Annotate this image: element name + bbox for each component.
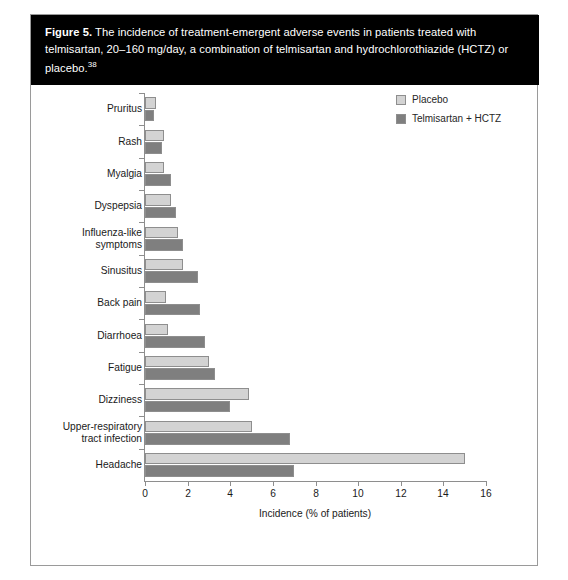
category-label-line: Myalgia: [12, 168, 142, 180]
category-label-line: Diarrhoea: [12, 330, 142, 342]
y-axis-category-label: Influenza-likesymptoms: [12, 227, 142, 251]
bar-placebo: [145, 130, 164, 142]
x-axis-tick-label: 6: [258, 488, 288, 499]
bar-telmisartan-hctz: [145, 271, 198, 283]
y-axis-category-label: Dizziness: [12, 394, 142, 406]
figure-panel: Figure 5. The incidence of treatment-eme…: [30, 14, 538, 566]
x-axis-tick: [443, 481, 444, 486]
bar-telmisartan-hctz: [145, 336, 205, 348]
bar-placebo: [145, 162, 164, 174]
category-label-line: Headache: [12, 459, 142, 471]
bar-telmisartan-hctz: [145, 239, 183, 251]
y-axis-category-label: Back pain: [12, 297, 142, 309]
bar-placebo: [145, 194, 171, 206]
bar-placebo: [145, 291, 166, 303]
x-axis-tick: [316, 481, 317, 486]
bar-placebo: [145, 97, 156, 109]
y-axis-tick: [139, 319, 144, 320]
bar-telmisartan-hctz: [145, 110, 154, 122]
y-axis-category-label: Fatigue: [12, 362, 142, 374]
y-axis-tick: [139, 158, 144, 159]
x-axis-line: [144, 481, 486, 482]
x-axis-title: Incidence (% of patients): [144, 508, 486, 519]
y-axis-tick: [139, 287, 144, 288]
y-axis-category-label: Rash: [12, 136, 142, 148]
y-axis-tick: [139, 255, 144, 256]
x-axis-tick: [273, 481, 274, 486]
bar-telmisartan-hctz: [145, 401, 230, 413]
bar-placebo: [145, 324, 168, 336]
y-axis-category-label: Sinusitus: [12, 265, 142, 277]
chart-plot-area: PlaceboTelmisartan + HCTZ Incidence (% o…: [31, 65, 539, 566]
x-axis-tick: [401, 481, 402, 486]
x-axis-tick-label: 14: [428, 488, 458, 499]
y-axis-tick: [139, 93, 144, 94]
y-axis-tick: [139, 449, 144, 450]
x-axis-tick-label: 10: [343, 488, 373, 499]
bar-telmisartan-hctz: [145, 207, 176, 219]
bar-placebo: [145, 388, 249, 400]
bar-placebo: [145, 259, 183, 271]
y-axis-category-label: Dyspepsia: [12, 200, 142, 212]
category-label-line: Sinusitus: [12, 265, 142, 277]
x-axis-tick-label: 0: [130, 488, 160, 499]
y-axis-tick: [139, 222, 144, 223]
y-axis-category-label: Diarrhoea: [12, 330, 142, 342]
category-label-line: Upper-respiratory: [12, 421, 142, 433]
category-label-line: Pruritus: [12, 103, 142, 115]
x-axis-tick-label: 2: [173, 488, 203, 499]
category-label-line: tract infection: [12, 433, 142, 445]
category-label-line: Influenza-like: [12, 227, 142, 239]
y-axis-tick: [139, 384, 144, 385]
bar-placebo: [145, 421, 252, 433]
bar-placebo: [145, 453, 465, 465]
bar-telmisartan-hctz: [145, 465, 294, 477]
y-axis-category-label: Pruritus: [12, 103, 142, 115]
y-axis-category-label: Myalgia: [12, 168, 142, 180]
y-axis-category-label: Upper-respiratorytract infection: [12, 421, 142, 445]
x-axis-tick: [486, 481, 487, 486]
category-label-line: Dizziness: [12, 394, 142, 406]
x-axis-tick: [188, 481, 189, 486]
x-axis-tick-label: 8: [301, 488, 331, 499]
bar-telmisartan-hctz: [145, 304, 200, 316]
bar-telmisartan-hctz: [145, 433, 290, 445]
x-axis-tick: [230, 481, 231, 486]
x-axis-tick-label: 16: [471, 488, 501, 499]
y-axis-tick: [139, 416, 144, 417]
x-axis-tick: [358, 481, 359, 486]
x-axis-tick: [145, 481, 146, 486]
x-axis-tick-label: 4: [215, 488, 245, 499]
y-axis-tick: [139, 190, 144, 191]
bar-telmisartan-hctz: [145, 142, 162, 154]
x-axis-tick-label: 12: [386, 488, 416, 499]
bar-telmisartan-hctz: [145, 174, 171, 186]
bar-placebo: [145, 227, 178, 239]
horizontal-bar-chart: Incidence (% of patients) PruritusRashMy…: [31, 65, 539, 566]
y-axis-category-label: Headache: [12, 459, 142, 471]
bar-placebo: [145, 356, 209, 368]
category-label-line: symptoms: [12, 239, 142, 251]
y-axis-tick: [139, 125, 144, 126]
figure-number: Figure 5.: [45, 26, 92, 38]
category-label-line: Fatigue: [12, 362, 142, 374]
category-label-line: Back pain: [12, 297, 142, 309]
category-label-line: Dyspepsia: [12, 200, 142, 212]
y-axis-tick: [139, 352, 144, 353]
bar-telmisartan-hctz: [145, 368, 215, 380]
category-label-line: Rash: [12, 136, 142, 148]
